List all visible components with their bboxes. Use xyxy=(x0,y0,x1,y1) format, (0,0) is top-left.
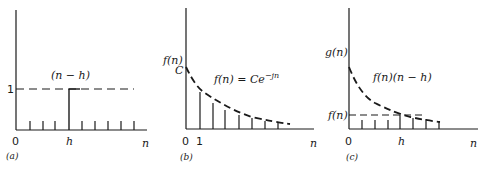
panel-b xyxy=(186,8,314,129)
figure: (n − h) 1 0 h n (a) f(n) C f(n) = Ce−jn … xyxy=(0,0,482,171)
panel-b-y-tick-label: C xyxy=(175,64,184,77)
panel-a-caption: (a) xyxy=(6,151,19,161)
panel-c-y-axis-label: g(n) xyxy=(325,46,348,59)
panel-a-n-label: n xyxy=(142,137,149,150)
panel-a-curve-label: (n − h) xyxy=(51,69,90,82)
panel-c xyxy=(349,8,478,129)
panel-a-origin-label: 0 xyxy=(12,135,19,148)
panel-c-ticks xyxy=(362,115,439,129)
panel-a-h-label: h xyxy=(66,135,73,148)
panel-b-n-label: n xyxy=(310,137,317,150)
panel-b-origin-label: 0 xyxy=(182,135,189,148)
panel-c-origin-label: 0 xyxy=(345,135,352,148)
panel-c-caption: (c) xyxy=(346,152,359,162)
panel-b-equation: f(n) = Ce−jn xyxy=(213,71,279,86)
panel-c-y-tick-label: f(n) xyxy=(327,109,348,122)
panel-b-stems xyxy=(200,92,278,129)
panel-c-n-label: n xyxy=(470,137,477,150)
panel-c-curve-label: f(n)(n − h) xyxy=(372,71,432,84)
panel-c-h-label: h xyxy=(398,135,405,148)
panel-a-y-tick-label: 1 xyxy=(7,83,14,96)
panel-b-one-label: 1 xyxy=(196,135,203,148)
panel-a-ticks xyxy=(30,121,134,130)
panel-b-caption: (b) xyxy=(180,152,193,162)
